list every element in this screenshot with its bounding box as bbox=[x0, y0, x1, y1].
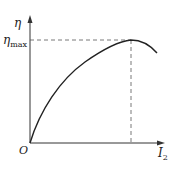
y-axis-arrow-icon bbox=[28, 15, 33, 23]
eta-max-label: ηmax bbox=[3, 33, 28, 49]
efficiency-chart: η ηmax O I2 bbox=[0, 0, 178, 172]
x-axis-arrow-icon bbox=[157, 141, 165, 146]
x-axis-label: I2 bbox=[157, 146, 168, 162]
origin-label: O bbox=[19, 144, 28, 157]
y-axis-label: η bbox=[14, 16, 22, 30]
efficiency-curve bbox=[30, 40, 157, 143]
